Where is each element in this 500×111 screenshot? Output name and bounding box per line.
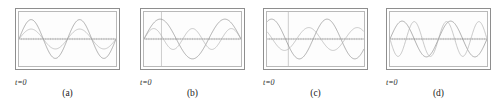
panel-d-caption: (d) xyxy=(386,88,491,98)
panel-c-plot-area xyxy=(266,11,365,67)
panel-b-waveform-svg xyxy=(144,12,241,66)
panel-c: t=0 xyxy=(263,8,368,70)
panel-a: t=0 xyxy=(15,8,120,70)
panel-d-plot-area xyxy=(389,11,488,67)
panel-d: t=0 xyxy=(386,8,491,70)
panel-a-caption: (a) xyxy=(15,88,120,98)
panel-a-frame xyxy=(15,8,120,70)
panel-c-t-zero-label: t=0 xyxy=(263,78,275,88)
panel-d-waveform-svg xyxy=(390,12,487,66)
panel-a-waveform-svg xyxy=(19,12,116,66)
panel-b-caption: (b) xyxy=(140,88,245,98)
panel-c-caption: (c) xyxy=(263,88,368,98)
panel-b-t-zero-label: t=0 xyxy=(140,78,152,88)
figure-container: t=0 (a) t=0 (b) t=0 (c) t=0 (d) xyxy=(0,0,500,111)
panel-b-frame xyxy=(140,8,245,70)
panel-b: t=0 xyxy=(140,8,245,70)
panel-a-t-zero-label: t=0 xyxy=(15,78,27,88)
panel-c-waveform-svg xyxy=(267,12,364,66)
panel-a-plot-area xyxy=(18,11,117,67)
panel-c-frame xyxy=(263,8,368,70)
panel-b-plot-area xyxy=(143,11,242,67)
panel-d-frame xyxy=(386,8,491,70)
panel-d-t-zero-label: t=0 xyxy=(386,78,398,88)
